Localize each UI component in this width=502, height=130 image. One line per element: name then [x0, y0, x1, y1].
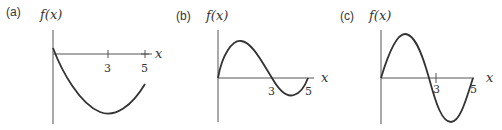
panel-a: (a) f(x) 3 5 x: [6, 5, 163, 124]
panel-b: (b) f(x) 3 5 x: [176, 8, 329, 122]
panel-a-tick-label-5: 5: [141, 62, 148, 75]
panel-c-y-axis-label: f(x): [368, 8, 391, 23]
panel-a-x-axis-label: x: [155, 46, 163, 61]
panel-b-curve: [218, 41, 308, 95]
panel-b-tick-label-3: 3: [268, 85, 275, 98]
panel-a-tick-label-3: 3: [104, 62, 111, 75]
panel-a-y-axis-label: f(x): [39, 7, 62, 22]
panel-b-label: (b): [176, 9, 191, 23]
panel-b-tick-label-5: 5: [305, 85, 312, 98]
panel-c-label: (c): [340, 9, 354, 23]
panel-b-x-axis-label: x: [321, 70, 329, 85]
panel-b-y-axis-label: f(x): [205, 8, 228, 23]
figure-canvas: (a) f(x) 3 5 x (b) f(x) 3 5 x (c) f(x) 3…: [0, 0, 502, 130]
panel-a-curve: [53, 48, 145, 114]
panel-c-x-axis-label: x: [486, 70, 494, 85]
panel-c: (c) f(x) 3 5 x: [340, 8, 494, 124]
panel-a-label: (a): [6, 5, 21, 19]
